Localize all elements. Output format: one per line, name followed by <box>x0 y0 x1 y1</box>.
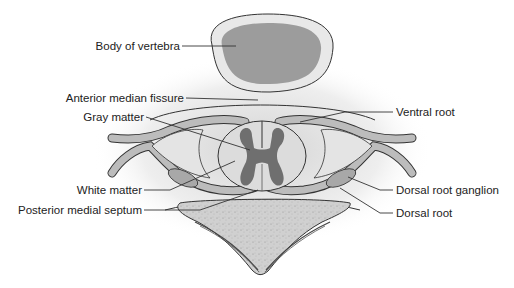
spinal-cord <box>218 121 306 191</box>
label-posterior-medial-septum: Posterior medial septum <box>18 204 142 217</box>
label-white-matter: White matter <box>77 184 142 197</box>
spinal-cord-diagram <box>0 0 514 288</box>
vertebral-body <box>211 14 333 92</box>
label-body-of-vertebra: Body of vertebra <box>96 40 180 53</box>
label-dorsal-root-ganglion: Dorsal root ganglion <box>396 184 499 197</box>
label-gray-matter: Gray matter <box>83 111 144 124</box>
label-dorsal-root: Dorsal root <box>396 207 452 220</box>
label-ventral-root: Ventral root <box>396 106 455 119</box>
label-anterior-median-fissure: Anterior median fissure <box>66 92 184 105</box>
